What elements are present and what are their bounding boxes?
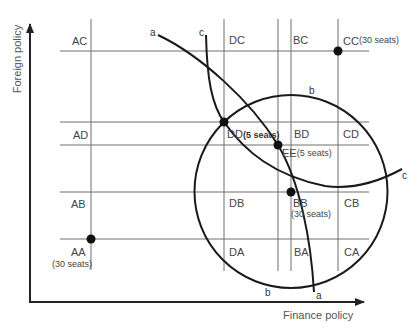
cell-labels-row-top: AC DC BC CC(30 seats) (72, 34, 399, 47)
cell-label-ca: CA (344, 246, 360, 258)
y-axis-label: Foreign policy (11, 24, 23, 93)
cell-label-dd-seats: (5 seats) (243, 130, 280, 140)
cell-label-cc-name: CC (343, 35, 359, 47)
cell-label-ee: EE(5 seats) (282, 147, 332, 159)
cell-label-ba: BA (294, 246, 309, 258)
x-axis-label: Finance policy (283, 309, 354, 321)
curve-c (206, 35, 402, 187)
cell-label-ee-seats: (5 seats) (297, 148, 332, 158)
cell-label-da: DA (229, 246, 245, 258)
curve-c-label-start: c (199, 27, 204, 38)
axes: Foreign policy Finance policy (11, 24, 364, 321)
cell-label-bb-seats: (30 seats) (291, 209, 331, 219)
curve-a-label-start: a (150, 27, 156, 38)
cell-label-aa: AA (71, 246, 86, 258)
curve-b-label-top: b (309, 85, 315, 96)
cell-label-ee-name: EE (282, 147, 297, 159)
cell-label-db: DB (229, 197, 244, 209)
cell-label-ab: AB (71, 198, 86, 210)
cell-labels-row-bottom: AA (30 seats) DA BA CA (52, 246, 360, 269)
curve-b-label-bottom: b (265, 287, 271, 298)
cell-label-dd: DD(5 seats) (227, 128, 279, 140)
point-aa (87, 235, 96, 244)
cell-label-bc: BC (293, 34, 308, 46)
cell-label-cc-seats: (30 seats) (359, 35, 399, 45)
diagram-svg: Foreign policy Finance policy a a b (0, 0, 419, 334)
cell-label-ac: AC (72, 35, 87, 47)
cell-label-cb: CB (344, 197, 359, 209)
cell-label-bd: BD (294, 128, 309, 140)
point-dd (220, 118, 229, 127)
curve-a-label-end: a (316, 290, 322, 301)
cell-label-ad: AD (73, 129, 88, 141)
cell-labels-row-lower: AB DB BB (30 seats) CB (71, 197, 359, 219)
curve-c-label-end: c (402, 170, 407, 181)
cell-label-dc: DC (229, 34, 245, 46)
cell-label-bb: BB (293, 197, 308, 209)
point-bb (287, 188, 296, 197)
policy-space-diagram: Foreign policy Finance policy a a b (0, 0, 419, 334)
cell-label-dd-name: DD (227, 128, 243, 140)
cell-label-aa-seats: (30 seats) (52, 259, 92, 269)
cell-label-cc: CC(30 seats) (343, 35, 399, 47)
cell-label-cd: CD (343, 128, 359, 140)
point-cc (334, 47, 343, 56)
